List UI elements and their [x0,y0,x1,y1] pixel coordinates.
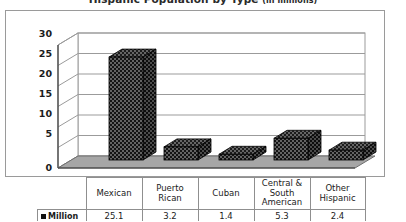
table-header-mexican-line1: Mexican [96,188,131,198]
y-axis-tick-5: 5 [26,129,52,139]
table-header-other-hispanic: Other Hispanic [310,178,365,210]
y-axis-tick-30: 30 [26,29,52,39]
table-header-other-line2: Hispanic [319,193,355,203]
table-value-central-south-american: 5.3 [254,210,310,222]
table-header-puerto-rican: Puerto Rican [142,178,198,210]
table-header-puerto-rican-line1: Puerto Rican [156,183,184,203]
legend-label: Million [48,212,78,221]
data-table: Mexican Puerto Rican Cuban Central & Sou… [37,177,366,221]
y-axis-tick-20: 20 [26,69,52,79]
chart-title: Hispanic Population by Type (in millions… [0,0,406,5]
legend-series-million: Million [38,210,87,222]
table-header-csa-line2: South [270,188,295,198]
chart-title-main: Hispanic Population by Type [89,0,259,5]
table-value-puerto-rican: 3.2 [142,210,198,222]
y-axis-tick-15: 15 [26,89,52,99]
table-value-row: Million 25.1 3.2 1.4 5.3 2.4 [38,210,366,222]
legend-swatch-icon [41,214,46,219]
table-header-cuban: Cuban [198,178,254,210]
table-corner-blank [38,178,87,210]
y-axis-tick-10: 10 [26,109,52,119]
table-header-csa-line1: Central & [262,178,302,188]
table-value-cuban: 1.4 [198,210,254,222]
table-header-other-line1: Other [325,183,349,193]
table-value-mexican: 25.1 [86,210,142,222]
table-header-cuban-line1: Cuban [212,188,239,198]
table-header-csa-line3: American [262,197,302,207]
y-axis-tick-25: 25 [26,49,52,59]
y-axis-tick-0: 0 [26,163,52,173]
table-header-mexican: Mexican [86,178,142,210]
table-header-row: Mexican Puerto Rican Cuban Central & Sou… [38,178,366,210]
chart-title-subtitle: (in millions) [262,0,317,5]
table-header-central-south-american: Central & South American [254,178,310,210]
chart-frame [5,10,385,177]
chart-root: Hispanic Population by Type (in millions… [0,0,406,221]
table-value-other-hispanic: 2.4 [310,210,365,222]
